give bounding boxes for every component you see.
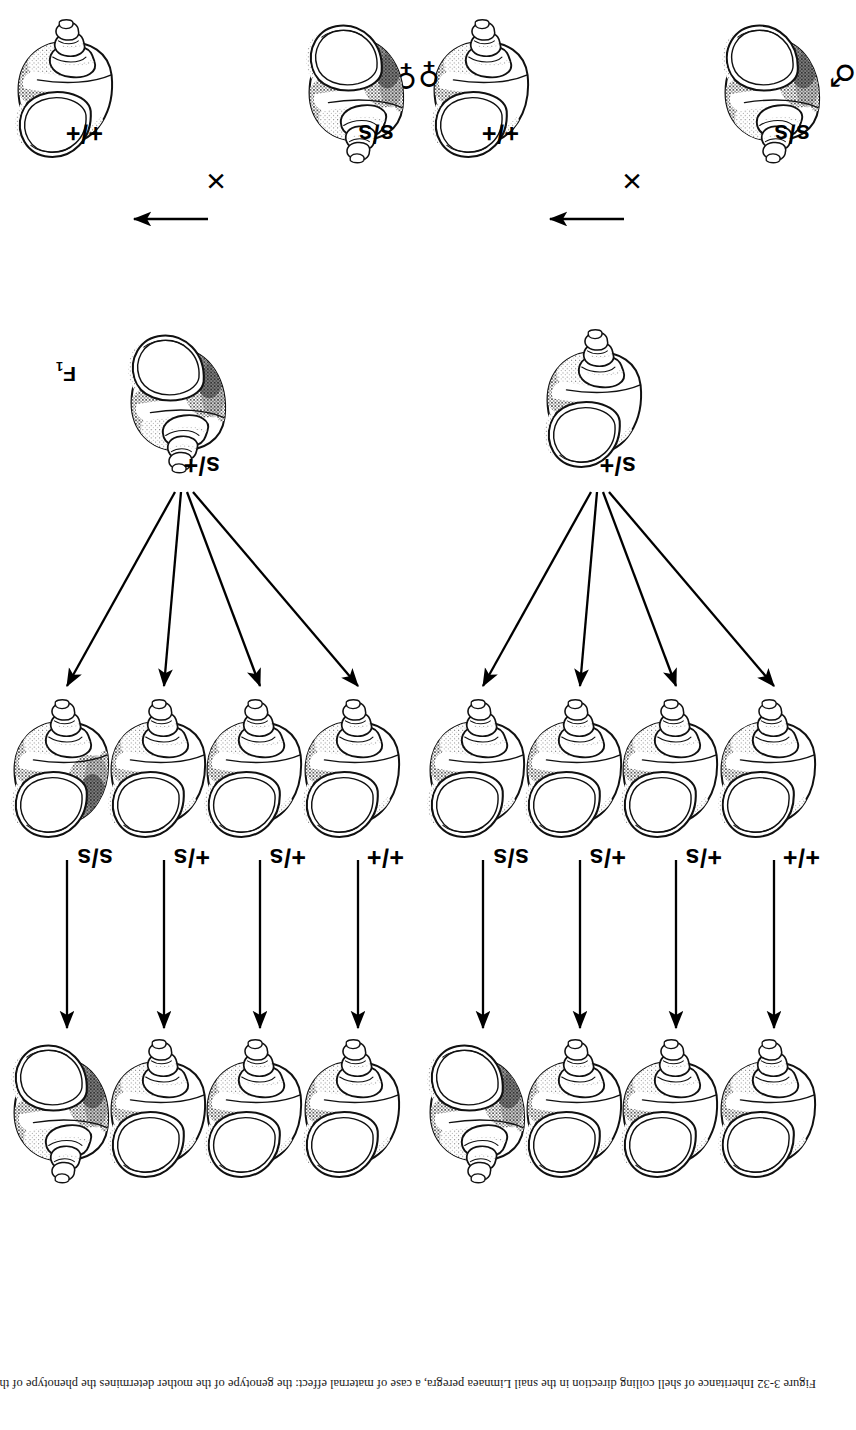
cross-a-f2-shell-1 — [712, 700, 826, 843]
cross-a-f3-genotype-2: +/s — [685, 843, 722, 872]
cross-a-parent-a-genotype: +/+ — [481, 119, 519, 148]
figure-caption: Figure 3-32 Inheritance of shell coiling… — [0, 1376, 816, 1392]
cross-b-parent-a-genotype: +/+ — [65, 119, 103, 148]
cross-b-parent-a-sex-symbol: ♂ — [0, 62, 1, 92]
cross-a-f3-shell-3 — [518, 1040, 632, 1183]
cross-a-f3-genotype-1: +/+ — [782, 843, 820, 872]
cross-a-f3-genotype-3: +/s — [589, 843, 626, 872]
cross-b-f3-shell-1 — [296, 1040, 410, 1183]
cross-a-parent-b-sex-symbol: ♂ — [829, 60, 856, 90]
cross-a-parent-b-genotype: s/s — [774, 119, 810, 148]
cross-b-parent-b-sex-symbol: ♀ — [418, 60, 440, 90]
cross-b-f2-shell-3 — [102, 700, 216, 843]
cross-b-parent-b-genotype: s/s — [358, 119, 394, 148]
cross-b-f3-genotype-4: s/s — [77, 843, 113, 872]
cross-b-f2-shell-4 — [5, 700, 119, 843]
cross-a-f3-shell-1 — [712, 1040, 826, 1183]
cross-b-f3-genotype-2: +/s — [269, 843, 306, 872]
cross-b-f1-genotype: s/+ — [183, 451, 220, 480]
cross-b-f3-genotype-1: +/+ — [366, 843, 404, 872]
cross-b-cross-symbol: × — [206, 165, 226, 199]
cross-b-f2-shell-1 — [296, 700, 410, 843]
generation-label-f1: F1 — [56, 359, 76, 386]
cross-b-f3-genotype-3: +/s — [173, 843, 210, 872]
cross-a-f1-genotype: s/+ — [599, 451, 636, 480]
cross-a-cross-symbol: × — [622, 165, 642, 199]
cross-a-f2-shell-4 — [421, 700, 535, 843]
cross-a-f2-shell-3 — [518, 700, 632, 843]
cross-b-f3-shell-3 — [102, 1040, 216, 1183]
cross-a-f3-genotype-4: s/s — [493, 843, 529, 872]
cross-a-f3-shell-4 — [421, 1040, 535, 1183]
cross-b-f3-shell-4 — [5, 1040, 119, 1183]
